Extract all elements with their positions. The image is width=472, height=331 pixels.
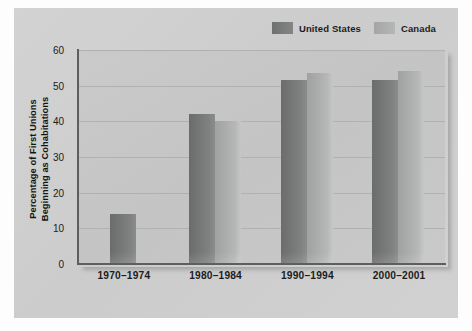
x-axis-line: [77, 263, 446, 265]
bar-group-1990-1994: [262, 50, 354, 264]
y-tick-label-40: 40: [53, 116, 64, 127]
bar-series-container: [78, 50, 445, 264]
bar-canada-1980-1984: [215, 121, 241, 264]
y-tick-label-20: 20: [53, 187, 64, 198]
chart-figure: United States Canada Percentage of First…: [0, 0, 472, 331]
chart-legend: United States Canada: [272, 22, 436, 34]
legend-label-united-states: United States: [299, 23, 361, 34]
bar-group-2000-2001: [353, 50, 445, 264]
y-axis-ticks: 60 50 40 30 20 10 0: [0, 50, 72, 264]
bar-united-states-1970-1974: [110, 214, 136, 264]
x-tick-label-2000-2001: 2000–2001: [373, 270, 426, 281]
bar-canada-2000-2001: [398, 71, 424, 264]
x-axis-ticks: 1970–1974 1980–1984 1990–1994 2000–2001: [78, 270, 445, 288]
x-tick-label-1990-1994: 1990–1994: [281, 270, 334, 281]
legend-label-canada: Canada: [401, 23, 436, 34]
legend-swatch-icon-united-states: [272, 22, 293, 34]
bar-canada-1990-1994: [307, 73, 333, 264]
legend-swatch-icon-canada: [374, 22, 395, 34]
bar-group-1970-1974: [78, 50, 170, 264]
legend-item-canada: Canada: [374, 22, 436, 34]
bar-united-states-1990-1994: [281, 80, 307, 264]
x-tick-label-1970-1974: 1970–1974: [97, 270, 150, 281]
y-tick-label-50: 50: [53, 80, 64, 91]
bar-united-states-2000-2001: [372, 80, 398, 264]
y-axis-line: [77, 49, 79, 265]
bar-group-1980-1984: [170, 50, 262, 264]
bar-united-states-1980-1984: [189, 114, 215, 264]
y-tick-label-0: 0: [58, 259, 64, 270]
legend-item-united-states: United States: [272, 22, 361, 34]
y-tick-label-60: 60: [53, 45, 64, 56]
x-tick-label-1980-1984: 1980–1984: [189, 270, 242, 281]
y-tick-label-30: 30: [53, 152, 64, 163]
y-tick-label-10: 10: [53, 223, 64, 234]
